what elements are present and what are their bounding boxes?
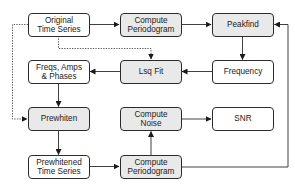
node-snr: SNR bbox=[212, 107, 274, 131]
node-lsq-fit: Lsq Fit bbox=[120, 60, 182, 84]
node-compute-noise: Compute Noise bbox=[120, 107, 182, 131]
node-compute-periodogram-2: Compute Periodogram bbox=[120, 155, 182, 179]
node-prewhitened-time-series: Prewhitened Time Series bbox=[28, 155, 90, 179]
node-compute-periodogram: Compute Periodogram bbox=[120, 13, 182, 37]
node-prewhiten: Prewhiten bbox=[28, 107, 90, 131]
edge-original-to-lsqfit-dotted bbox=[59, 36, 152, 59]
node-frequency: Frequency bbox=[212, 60, 274, 84]
edge-original-to-prewhiten-dotted bbox=[13, 25, 29, 120]
node-original-time-series: Original Time Series bbox=[28, 13, 90, 37]
edge-periodogram2-to-peakfind bbox=[181, 25, 288, 168]
node-peakfind: Peakfind bbox=[212, 13, 274, 37]
node-freqs-amps-phases: Freqs, Amps & Phases bbox=[28, 60, 90, 84]
